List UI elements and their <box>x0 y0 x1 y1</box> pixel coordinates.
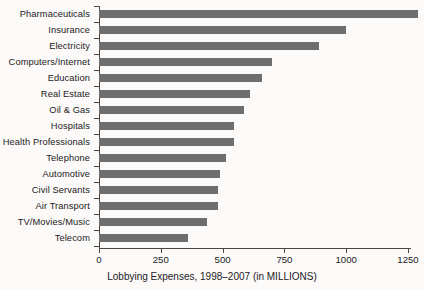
y-axis-tick <box>94 118 99 119</box>
bar-row <box>99 230 424 246</box>
y-axis-tick <box>94 134 99 135</box>
x-axis-line <box>99 248 411 249</box>
bar-row <box>99 38 424 54</box>
category-label: TV/Movies/Music <box>0 214 93 230</box>
category-label: Telephone <box>0 150 93 166</box>
y-axis-tick <box>94 86 99 87</box>
bar <box>99 90 250 98</box>
bar <box>99 138 234 146</box>
bar-row <box>99 118 424 134</box>
category-label: Civil Servants <box>0 182 93 198</box>
category-label: Insurance <box>0 22 93 38</box>
x-axis-tick-label: 750 <box>276 254 292 265</box>
bar <box>99 10 418 18</box>
x-axis-tick-label: 250 <box>153 254 169 265</box>
bar-row <box>99 134 424 150</box>
bar <box>99 218 207 226</box>
bar-row <box>99 54 424 70</box>
y-axis-tick <box>94 214 99 215</box>
bar-row <box>99 70 424 86</box>
bar-row <box>99 102 424 118</box>
category-axis-labels: PharmaceuticalsInsuranceElectricityCompu… <box>0 6 93 246</box>
y-axis-tick <box>94 198 99 199</box>
x-axis-tick-label: 500 <box>215 254 231 265</box>
y-axis-tick <box>94 54 99 55</box>
bar <box>99 74 262 82</box>
category-label: Education <box>0 70 93 86</box>
category-label: Electricity <box>0 38 93 54</box>
x-axis-tick-label: 0 <box>96 254 101 265</box>
bar <box>99 26 346 34</box>
bar <box>99 154 226 162</box>
y-axis-tick <box>94 150 99 151</box>
bar <box>99 186 218 194</box>
x-axis-tick <box>408 248 409 253</box>
bar <box>99 106 244 114</box>
y-axis-tick <box>94 230 99 231</box>
y-axis-tick <box>94 38 99 39</box>
bar-row <box>99 150 424 166</box>
x-axis-tick <box>284 248 285 253</box>
y-axis-tick <box>94 22 99 23</box>
y-axis-tick <box>94 6 99 7</box>
category-label: Health Professionals <box>0 134 93 150</box>
category-label: Air Transport <box>0 198 93 214</box>
y-axis-tick <box>94 70 99 71</box>
plot-area <box>99 6 424 248</box>
x-axis-tick-label: 1000 <box>336 254 357 265</box>
category-label: Telecom <box>0 230 93 246</box>
bar <box>99 170 220 178</box>
category-label: Computers/Internet <box>0 54 93 70</box>
chart-title: Lobbying Expenses, 1998–2007 (in MILLION… <box>0 271 424 282</box>
bar-row <box>99 166 424 182</box>
bar <box>99 202 218 210</box>
bar-row <box>99 86 424 102</box>
category-label: Automotive <box>0 166 93 182</box>
category-label: Oil & Gas <box>0 102 93 118</box>
bar-row <box>99 182 424 198</box>
x-axis-tick <box>161 248 162 253</box>
bar-row <box>99 22 424 38</box>
bar <box>99 234 188 242</box>
x-axis-tick <box>99 248 100 253</box>
x-axis-tick-label: 1250 <box>397 254 418 265</box>
x-axis-tick <box>223 248 224 253</box>
y-axis-tick <box>94 246 99 247</box>
y-axis-tick <box>94 182 99 183</box>
y-axis-tick <box>94 166 99 167</box>
category-label: Real Estate <box>0 86 93 102</box>
y-axis-tick <box>94 102 99 103</box>
category-label: Hospitals <box>0 118 93 134</box>
bar <box>99 42 319 50</box>
bar-row <box>99 214 424 230</box>
category-label: Pharmaceuticals <box>0 6 93 22</box>
x-axis-tick <box>346 248 347 253</box>
bar-rows <box>99 6 424 246</box>
bar <box>99 122 234 130</box>
bar-row <box>99 6 424 22</box>
lobbying-expenses-bar-chart: PharmaceuticalsInsuranceElectricityCompu… <box>0 0 424 290</box>
bar-row <box>99 198 424 214</box>
bar <box>99 58 272 66</box>
